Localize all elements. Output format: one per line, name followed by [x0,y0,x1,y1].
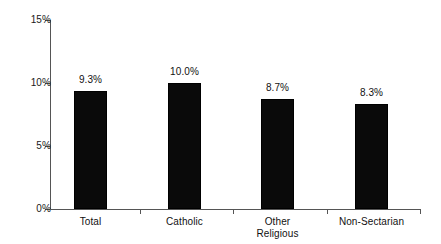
bar-value-catholic: 10.0% [154,66,215,77]
bar-value-total: 9.3% [60,74,121,85]
y-tick-label-0: 0% [11,204,51,214]
bar-catholic [168,83,201,209]
category-label-total: Total [60,216,121,228]
y-axis-line [50,20,51,210]
category-label-other-religious: Other Religious [247,216,308,239]
y-tick-label-10: 10% [11,78,51,88]
x-tick-mark-1 [140,209,141,214]
category-label-catholic: Catholic [154,216,215,228]
y-tick-label-5: 5% [11,141,51,151]
bar-chart: 15% 10% 5% 0% 9.3% Total 10.0% Catholic … [0,0,441,244]
bar-other-religious [261,99,294,209]
bar-value-other-religious: 8.7% [247,82,308,93]
x-tick-mark-4 [420,209,421,214]
y-tick-label-15: 15% [11,15,51,25]
x-tick-mark-2 [233,209,234,214]
bar-value-non-sectarian: 8.3% [341,87,402,98]
bar-total [74,91,107,209]
category-label-non-sectarian: Non-Sectarian [330,216,413,228]
bar-non-sectarian [355,104,388,209]
x-axis-line [50,209,421,210]
x-tick-mark-3 [327,209,328,214]
